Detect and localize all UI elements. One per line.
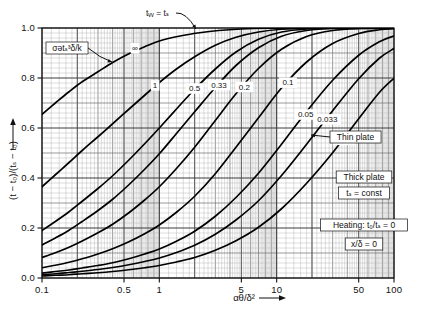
curve-label: 0.5 — [189, 84, 201, 93]
conditions-line-text: tₛ = const — [346, 188, 382, 198]
conditions-line-text: x/δ = 0 — [351, 239, 377, 249]
x-tick-label: 100 — [386, 284, 402, 295]
chart-svg: 0.10.51510501000.00.20.40.60.81.0 ∞10.50… — [0, 0, 430, 332]
y-tick-label: 0.0 — [21, 272, 35, 283]
x-tick-label: 10 — [271, 284, 282, 295]
annotation-text: σətₛ³δ/k — [52, 43, 82, 53]
curve-label: 0.033 — [317, 115, 338, 124]
y-tick-label: 1.0 — [21, 22, 35, 33]
annotation-text: Thin plate — [337, 132, 375, 142]
curve-label: 0.33 — [211, 81, 227, 90]
y-tick-label: 0.6 — [21, 122, 35, 133]
y-tick-label: 0.4 — [21, 172, 35, 183]
curve-label: 1 — [153, 81, 158, 90]
figure-canvas: 0.10.51510501000.00.20.40.60.81.0 ∞10.50… — [0, 0, 430, 332]
x-tick-label: 0.1 — [35, 284, 49, 295]
curve-label: ∞ — [132, 44, 138, 53]
conditions-line-text: Heating: t₀/tₛ = 0 — [333, 220, 395, 230]
y-tick-label: 0.8 — [21, 72, 35, 83]
curve-label: 0.05 — [298, 110, 314, 119]
conditions-line-text: Thick plate — [343, 172, 384, 182]
curve-label: 0.1 — [282, 78, 294, 87]
curve-label: 0.2 — [239, 83, 251, 92]
x-tick-label: 50 — [353, 284, 364, 295]
x-tick-label: 0.5 — [117, 284, 131, 295]
x-tick-label: 1 — [157, 284, 162, 295]
y-tick-label: 0.2 — [21, 222, 35, 233]
annotation-tw-ts-text: tᵥᵥ = tₛ — [146, 8, 169, 18]
x-axis-title-text: αθ/δ² — [233, 292, 255, 303]
